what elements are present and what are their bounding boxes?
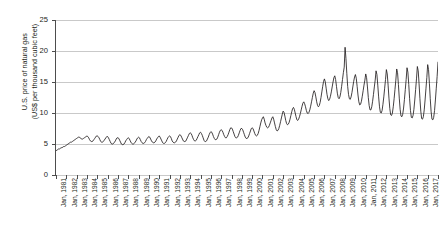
x-tick-label-27: Jan, 2008 xyxy=(338,178,348,236)
x-tick-label-28: Jan, 2009 xyxy=(348,178,358,236)
y-tick-label-20: 20 xyxy=(24,46,48,55)
x-tick-label-25: Jan, 2006 xyxy=(317,178,327,236)
x-tick-label-19: Jan, 2000 xyxy=(255,178,265,236)
x-tick-label-7: Jan, 1988 xyxy=(131,178,141,236)
x-tick-label-2: Jan, 1983 xyxy=(80,178,90,236)
x-tick-label-32: Jan, 2013 xyxy=(390,178,400,236)
x-tick-label-13: Jan, 1994 xyxy=(193,178,203,236)
x-tick-label-36: Jan, 2017 xyxy=(431,178,441,236)
x-tick-label-30: Jan, 2011 xyxy=(369,178,379,236)
x-tick-label-4: Jan, 1985 xyxy=(100,178,110,236)
x-tick-label-15: Jan, 1996 xyxy=(214,178,224,236)
y-axis-title: U.S. price of natural gas (US$ per thous… xyxy=(0,0,40,182)
x-tick-label-21: Jan, 2002 xyxy=(276,178,286,236)
y-tick-mark-25 xyxy=(52,20,55,21)
x-tick-label-22: Jan, 2003 xyxy=(286,178,296,236)
x-tick-label-12: Jan, 1993 xyxy=(183,178,193,236)
x-tick-label-3: Jan, 1984 xyxy=(90,178,100,236)
x-tick-label-16: Jan, 1997 xyxy=(224,178,234,236)
y-tick-mark-15 xyxy=(52,82,55,83)
x-tick-label-23: Jan, 2004 xyxy=(297,178,307,236)
x-tick-label-20: Jan, 2001 xyxy=(266,178,276,236)
x-axis-tick-labels: Jan, 1981Jan, 1982Jan, 1983Jan, 1984Jan,… xyxy=(56,180,438,238)
y-tick-mark-5 xyxy=(52,144,55,145)
x-tick-label-5: Jan, 1986 xyxy=(111,178,121,236)
y-tick-label-10: 10 xyxy=(24,108,48,117)
y-tick-label-5: 5 xyxy=(24,139,48,148)
y-tick-label-25: 25 xyxy=(24,15,48,24)
x-tick-label-10: Jan, 1991 xyxy=(162,178,172,236)
x-tick-label-29: Jan, 2010 xyxy=(359,178,369,236)
x-tick-label-24: Jan, 2005 xyxy=(307,178,317,236)
natural-gas-price-chart: U.S. price of natural gas (US$ per thous… xyxy=(0,0,441,240)
y-tick-label-15: 15 xyxy=(24,77,48,86)
x-tick-mark-0 xyxy=(56,175,57,179)
y-tick-mark-10 xyxy=(52,113,55,114)
x-tick-label-6: Jan, 1987 xyxy=(121,178,131,236)
x-tick-label-1: Jan, 1982 xyxy=(70,178,80,236)
x-tick-label-11: Jan, 1992 xyxy=(173,178,183,236)
x-tick-label-18: Jan, 1999 xyxy=(245,178,255,236)
x-tick-label-34: Jan, 2015 xyxy=(410,178,420,236)
x-tick-label-8: Jan, 1989 xyxy=(142,178,152,236)
x-tick-label-26: Jan, 2007 xyxy=(328,178,338,236)
plot-area: 0510152025 xyxy=(56,20,438,175)
x-tick-label-17: Jan, 1998 xyxy=(235,178,245,236)
x-tick-label-9: Jan, 1990 xyxy=(152,178,162,236)
x-tick-label-14: Jan, 1995 xyxy=(204,178,214,236)
x-tick-label-31: Jan, 2012 xyxy=(379,178,389,236)
y-tick-label-0: 0 xyxy=(24,170,48,179)
price-line-series xyxy=(56,20,438,175)
x-tick-label-0: Jan, 1981 xyxy=(59,178,69,236)
y-tick-mark-0 xyxy=(52,175,55,176)
x-tick-label-35: Jan, 2016 xyxy=(421,178,431,236)
y-tick-mark-20 xyxy=(52,51,55,52)
x-tick-label-33: Jan, 2014 xyxy=(400,178,410,236)
